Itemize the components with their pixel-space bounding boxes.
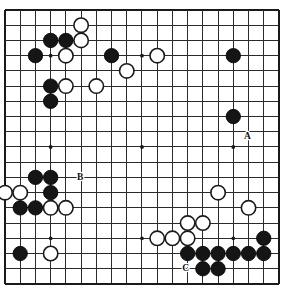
- marker-label-c: C: [182, 263, 189, 273]
- black-stone[interactable]: [43, 79, 57, 93]
- go-board[interactable]: ABC: [0, 0, 286, 305]
- black-stone[interactable]: [59, 33, 73, 47]
- white-stone[interactable]: [43, 246, 57, 260]
- white-stone[interactable]: [0, 185, 12, 199]
- black-stone[interactable]: [211, 262, 225, 276]
- black-stone[interactable]: [226, 109, 240, 123]
- star-point: [140, 145, 144, 149]
- black-stone[interactable]: [241, 246, 255, 260]
- white-stone[interactable]: [59, 79, 73, 93]
- star-point: [140, 54, 144, 58]
- star-point: [231, 236, 235, 240]
- black-stone[interactable]: [13, 246, 27, 260]
- black-stone[interactable]: [257, 231, 271, 245]
- black-stone[interactable]: [196, 262, 210, 276]
- black-stone[interactable]: [226, 48, 240, 62]
- star-point: [49, 145, 53, 149]
- marker-label-a: A: [244, 131, 251, 141]
- star-point: [231, 145, 235, 149]
- black-stone[interactable]: [104, 48, 118, 62]
- white-stone[interactable]: [89, 79, 103, 93]
- black-stone[interactable]: [226, 246, 240, 260]
- black-stone[interactable]: [43, 185, 57, 199]
- board-background: [0, 0, 286, 305]
- white-stone[interactable]: [150, 48, 164, 62]
- white-stone[interactable]: [180, 231, 194, 245]
- white-stone[interactable]: [120, 64, 134, 78]
- white-stone[interactable]: [13, 185, 27, 199]
- white-stone[interactable]: [165, 231, 179, 245]
- black-stone[interactable]: [43, 94, 57, 108]
- star-point: [49, 236, 53, 240]
- black-stone[interactable]: [196, 246, 210, 260]
- black-stone[interactable]: [13, 201, 27, 215]
- white-stone[interactable]: [74, 18, 88, 32]
- white-stone[interactable]: [43, 201, 57, 215]
- marker-label-b: B: [77, 172, 84, 182]
- white-stone[interactable]: [196, 216, 210, 230]
- white-stone[interactable]: [180, 216, 194, 230]
- white-stone[interactable]: [241, 201, 255, 215]
- black-stone[interactable]: [28, 48, 42, 62]
- star-point: [49, 54, 53, 58]
- white-stone[interactable]: [59, 48, 73, 62]
- star-point: [140, 236, 144, 240]
- black-stone[interactable]: [211, 246, 225, 260]
- white-stone[interactable]: [59, 201, 73, 215]
- white-stone[interactable]: [74, 33, 88, 47]
- go-board-figure: ABC: [0, 0, 286, 305]
- black-stone[interactable]: [43, 170, 57, 184]
- black-stone[interactable]: [28, 170, 42, 184]
- black-stone[interactable]: [43, 33, 57, 47]
- black-stone[interactable]: [180, 246, 194, 260]
- black-stone[interactable]: [257, 246, 271, 260]
- white-stone[interactable]: [211, 185, 225, 199]
- white-stone[interactable]: [150, 231, 164, 245]
- black-stone[interactable]: [28, 201, 42, 215]
